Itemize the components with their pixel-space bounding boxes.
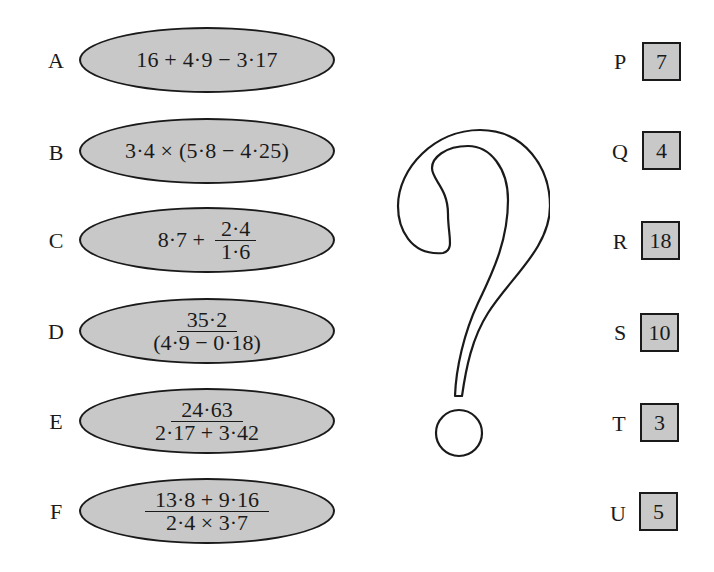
- fraction-numerator: 24·63: [171, 399, 242, 422]
- answer-label: U: [606, 503, 630, 525]
- question-mark-icon: [380, 128, 550, 458]
- fraction: 13·8 + 9·16 2·4 × 3·7: [145, 489, 269, 534]
- answer-label: Q: [608, 141, 632, 163]
- expression-label: E: [44, 411, 68, 433]
- mixed-expression: 8·7 + 2·4 1·6: [158, 218, 257, 263]
- answer-label: T: [607, 413, 631, 435]
- answer-box: 4: [642, 131, 681, 170]
- expression-label: A: [44, 50, 68, 72]
- question-mark-dot: [436, 410, 482, 456]
- expression-ellipse: 13·8 + 9·16 2·4 × 3·7: [79, 478, 335, 544]
- fraction-numerator: 2·4: [215, 218, 256, 241]
- fraction-denominator: 1·6: [215, 241, 256, 263]
- answer-value: 3: [654, 410, 665, 436]
- expression-label: B: [44, 142, 68, 164]
- expression-ellipse: 3·4 × (5·8 − 4·25): [79, 118, 335, 184]
- answer-box: 3: [640, 403, 679, 442]
- fraction-denominator: 2·4 × 3·7: [156, 512, 258, 534]
- expression-label: F: [44, 501, 68, 523]
- expression-ellipse: 8·7 + 2·4 1·6: [79, 207, 335, 273]
- answer-box: 10: [640, 313, 679, 352]
- fraction-denominator: (4·9 − 0·18): [143, 332, 271, 354]
- expression-ellipse: 24·63 2·17 + 3·42: [79, 388, 335, 454]
- expression-text: 3·4 × (5·8 − 4·25): [125, 138, 289, 164]
- expression-ellipse: 35·2 (4·9 − 0·18): [79, 298, 335, 364]
- answer-value: 7: [656, 49, 667, 75]
- answer-label: S: [608, 322, 632, 344]
- answer-value: 10: [649, 320, 671, 346]
- expression-label: D: [44, 321, 68, 343]
- answer-label: P: [608, 51, 632, 73]
- answer-value: 5: [653, 499, 664, 525]
- fraction-denominator: 2·17 + 3·42: [145, 422, 269, 444]
- fraction: 24·63 2·17 + 3·42: [145, 399, 269, 444]
- expression-prefix: 8·7 +: [158, 227, 205, 253]
- answer-value: 18: [650, 228, 672, 254]
- expression-text: 16 + 4·9 − 3·17: [136, 47, 277, 73]
- answer-box: 5: [639, 492, 678, 531]
- answer-box: 7: [642, 42, 681, 81]
- answer-value: 4: [656, 138, 667, 164]
- fraction-numerator: 13·8 + 9·16: [145, 489, 269, 512]
- answer-box: 18: [641, 221, 680, 260]
- fraction: 2·4 1·6: [215, 218, 256, 263]
- expression-ellipse: 16 + 4·9 − 3·17: [79, 27, 335, 93]
- fraction-numerator: 35·2: [177, 309, 237, 332]
- answer-label: R: [608, 231, 632, 253]
- expression-label: C: [44, 230, 68, 252]
- question-mark-hook: [398, 130, 550, 396]
- fraction: 35·2 (4·9 − 0·18): [143, 309, 271, 354]
